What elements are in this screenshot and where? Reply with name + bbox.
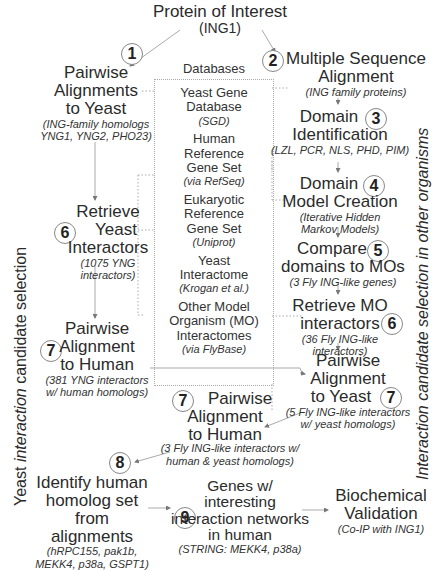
step-line: domains to MOs <box>278 258 408 276</box>
step-detail: (ING-family homologs <box>30 118 162 131</box>
step-detail: YNG1, YNG2, PHO23) <box>30 130 162 143</box>
database-list: Yeast Gene Database (SGD) Human Referenc… <box>154 86 274 357</box>
step-line: Alignments <box>30 82 162 100</box>
db-name-line: Reference <box>154 207 274 221</box>
step-line: Multiple Sequence <box>276 50 436 68</box>
biochemical-validation: Biochemical Validation (Co-IP with ING1) <box>326 487 436 535</box>
databases-header: Databases <box>154 62 274 76</box>
step-line: Pairwise <box>42 320 152 338</box>
step-5-compare-domains: Compare domains to MOs (3 Fly ING-like g… <box>278 240 408 288</box>
step-detail: (1075 YNG <box>58 257 158 270</box>
step-line: Compare <box>278 240 408 258</box>
database-item-yeast-interactome: Yeast Interactome (Krogan et al.) <box>154 254 274 296</box>
db-source: (Uniprot) <box>154 236 274 250</box>
step-detail: (Co-IP with ING1) <box>326 523 436 536</box>
step-line: alignments <box>30 528 154 546</box>
db-name-line: Yeast Gene <box>154 86 274 100</box>
step-line: Pairwise <box>150 390 300 408</box>
step-line: Alignment <box>150 408 300 426</box>
step-detail: (3 Fly ING-like interactors w/ <box>130 442 330 455</box>
step-7-pairwise-alignment-to-human-yeast: Pairwise Alignment to Human (381 YNG int… <box>42 320 152 399</box>
step-line: Pairwise <box>30 64 162 82</box>
step-detail: (381 YNG interactors <box>42 374 152 387</box>
db-source: (via RefSeq) <box>154 175 274 189</box>
step-detail: (hRPC155, pak1b, <box>30 545 154 558</box>
db-name-line: Other Model <box>154 300 274 314</box>
database-item-uniprot: Eukaryotic Reference Gene Set (Uniprot) <box>154 193 274 250</box>
step-1-pairwise-alignments-to-yeast: Pairwise Alignments to Yeast (ING-family… <box>30 64 162 143</box>
step-line: Identify human <box>30 474 154 492</box>
step-line: Retrieve MO <box>280 297 400 315</box>
step-detail: (Iterative Hidden <box>275 211 405 224</box>
db-name-line: Yeast <box>154 254 274 268</box>
step-line: Interactors <box>58 239 158 257</box>
step-9-interaction-networks: Genes w/ interesting interaction network… <box>170 478 310 556</box>
database-item-sgd: Yeast Gene Database (SGD) <box>154 86 274 128</box>
db-source: (Krogan et al.) <box>154 282 274 296</box>
left-side-label: Yeast interaction candidate selection <box>12 247 30 506</box>
top-title: Protein of Interest <box>150 3 290 21</box>
db-source: (via FlyBase) <box>154 343 274 357</box>
step-detail: human & yeast homologs) <box>130 455 330 468</box>
side-label-part: interaction <box>12 388 29 462</box>
step-line: Biochemical <box>326 487 436 505</box>
db-name-line: Eukaryotic <box>154 193 274 207</box>
db-name-line: Database <box>154 100 274 114</box>
step-line: Pairwise <box>278 352 418 370</box>
database-item-mo-interactomes: Other Model Organism (MO) Interactomes (… <box>154 300 274 357</box>
step-7-center-detail: (3 Fly ING-like interactors w/ human & y… <box>130 442 330 467</box>
db-name-line: Organism (MO) <box>154 314 274 328</box>
step-detail: (36 Fly ING-like <box>280 333 400 346</box>
step-line: Alignment <box>278 370 418 388</box>
db-name-line: Interactomes <box>154 329 274 343</box>
db-name-line: Interactome <box>154 268 274 282</box>
step-line: Alignment <box>276 68 436 86</box>
db-source: (SGD) <box>154 115 274 129</box>
db-name-line: Human <box>154 132 274 146</box>
step-line: Alignment <box>42 338 152 356</box>
step-number-8: 8 <box>109 452 131 474</box>
protein-of-interest: Protein of Interest (ING1) <box>150 3 290 36</box>
step-line: Genes w/ interesting <box>170 478 310 511</box>
step-2-multiple-sequence-alignment: Multiple Sequence Alignment (ING family … <box>276 50 436 98</box>
right-side-label: Interaction candidate selection in other… <box>414 128 432 480</box>
side-label-part: in <box>414 247 431 259</box>
top-subtitle: (ING1) <box>150 21 290 36</box>
db-name-line: Gene Set <box>154 222 274 236</box>
step-detail: (3 Fly ING-like genes) <box>278 276 408 289</box>
step-detail: MEKK4, p38a, GSPT1) <box>30 558 154 571</box>
step-7-pairwise-alignment-to-human-mo: Pairwise Alignment to Human <box>150 390 300 444</box>
step-line: to Human <box>42 356 152 374</box>
step-4-domain-model-creation: Domain Model Creation (Iterative Hidden … <box>275 175 405 236</box>
step-line: Domain <box>275 175 405 193</box>
step-detail: Markov Models) <box>275 223 405 236</box>
side-label-part: Interaction candidate selection <box>414 259 431 480</box>
step-line: Model Creation <box>275 193 405 211</box>
step-line: to Yeast <box>30 100 162 118</box>
step-8-identify-human-homologs: Identify human homolog set from alignmen… <box>30 474 154 571</box>
step-detail: (LZL, PCR, NLS, PHD, PIM) <box>270 144 410 157</box>
step-6-retrieve-yeast-interactors: Retrieve Yeast Interactors (1075 YNG int… <box>58 203 158 282</box>
step-detail: w/ human homologs) <box>42 386 152 399</box>
side-label-part: candidate selection <box>12 247 29 388</box>
step-line: Yeast <box>58 221 158 239</box>
side-label-part: Yeast <box>12 462 29 506</box>
step-line: Domain <box>270 108 410 126</box>
step-line: in human <box>170 527 310 543</box>
step-line: Retrieve <box>58 203 158 221</box>
side-label-part: other organisms <box>414 128 431 247</box>
step-3-domain-identification: Domain Identification (LZL, PCR, NLS, PH… <box>270 108 410 156</box>
step-line: interaction networks <box>170 511 310 527</box>
step-line: Identification <box>270 126 410 144</box>
step-detail: interactors) <box>58 269 158 282</box>
step-6-retrieve-mo-interactors: Retrieve MO interactors (36 Fly ING-like… <box>280 297 400 358</box>
step-number-1: 1 <box>121 43 143 65</box>
step-line: homolog set from <box>30 492 154 528</box>
step-line: Validation <box>326 505 436 523</box>
step-detail: (ING family proteins) <box>276 86 436 99</box>
db-name-line: Reference <box>154 147 274 161</box>
db-name-line: Gene Set <box>154 161 274 175</box>
database-item-refseq: Human Reference Gene Set (via RefSeq) <box>154 132 274 189</box>
step-line: interactors <box>280 315 400 333</box>
step-detail: (STRING: MEKK4, p38a) <box>170 543 310 556</box>
